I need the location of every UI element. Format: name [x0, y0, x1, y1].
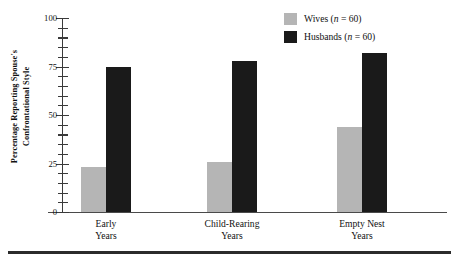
legend-item-husbands: Husbands (n = 60)	[284, 30, 375, 43]
y-tick-minor	[58, 134, 68, 135]
legend-label-wives: Wives (n = 60)	[304, 13, 362, 24]
y-tick-minor	[58, 105, 68, 106]
legend-swatch-wives	[284, 13, 297, 25]
bar-wives-2	[337, 127, 362, 212]
y-tick-major	[56, 212, 69, 213]
y-tick-label: 50	[48, 111, 57, 120]
y-tick-label: 75	[48, 62, 57, 71]
y-tick-minor	[58, 37, 68, 38]
legend-label-husbands: Husbands (n = 60)	[304, 31, 375, 42]
bar-husbands-0	[106, 67, 131, 213]
y-tick-minor	[58, 76, 68, 77]
bar-husbands-2	[362, 53, 387, 212]
y-tick-minor	[58, 47, 68, 48]
y-tick-label: 0	[53, 208, 57, 217]
y-axis-label-wrapper: Percentage Reporting Spouse's Confrontat…	[0, 0, 32, 220]
y-tick-minor	[58, 193, 68, 194]
y-tick-minor	[58, 86, 68, 87]
legend-item-wives: Wives (n = 60)	[284, 12, 375, 25]
y-tick-label: 25	[48, 159, 57, 168]
bar-chart-figure: Percentage Reporting Spouse's Confrontat…	[0, 0, 459, 263]
y-tick-label: 100	[44, 14, 57, 23]
y-tick-major	[56, 115, 69, 116]
bottom-divider-rule	[8, 251, 451, 254]
y-tick-minor	[58, 125, 68, 126]
y-tick-major	[56, 67, 69, 68]
x-axis-line	[48, 212, 447, 213]
y-axis-label: Percentage Reporting Spouse's Confrontat…	[9, 7, 32, 207]
bar-wives-0	[81, 167, 106, 212]
plot-area: 0255075100 Early YearsChild-Rearing Year…	[62, 18, 447, 212]
bar-husbands-1	[232, 61, 257, 212]
x-category-label-0: Early Years	[46, 218, 166, 241]
x-category-label-2: Empty Nest Years	[302, 218, 422, 241]
y-tick-minor	[58, 183, 68, 184]
y-tick-minor	[58, 144, 68, 145]
y-tick-minor	[58, 173, 68, 174]
y-tick-minor	[58, 154, 68, 155]
bar-wives-1	[207, 162, 232, 212]
y-tick-minor	[58, 57, 68, 58]
y-tick-minor	[58, 28, 68, 29]
y-tick-minor	[58, 96, 68, 97]
legend-swatch-husbands	[284, 31, 297, 43]
y-tick-major	[56, 18, 69, 19]
x-category-label-1: Child-Rearing Years	[172, 218, 292, 241]
y-tick-minor	[58, 202, 68, 203]
y-tick-major	[56, 164, 69, 165]
chart-legend: Wives (n = 60) Husbands (n = 60)	[284, 12, 375, 48]
